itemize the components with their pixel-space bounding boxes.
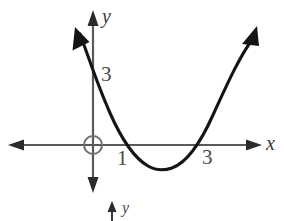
- y-axis-up-arrow-icon: [88, 10, 99, 26]
- y-axis-label: y: [102, 6, 111, 26]
- y-axis-down-arrow-icon: [88, 177, 99, 193]
- x-axis-right-arrow-icon: [246, 140, 262, 151]
- x-intercept-left-tick-label: 1: [117, 148, 128, 169]
- x-axis-label: x: [266, 133, 275, 153]
- stray-bottom-axis-arrow-icon: [108, 201, 117, 221]
- parabola-curve: [80, 34, 252, 170]
- parabola-right-arrow-icon: [242, 26, 259, 46]
- parabola-figure: y x 3 1 3 y: [0, 0, 285, 221]
- coordinate-plane-graphic: [0, 0, 285, 221]
- stray-bottom-y-label: y: [122, 200, 129, 216]
- x-axis-left-arrow-icon: [8, 140, 24, 151]
- y-intercept-tick-label: 3: [101, 64, 112, 85]
- parabola-left-arrow-icon: [73, 27, 90, 51]
- x-intercept-right-tick-label: 3: [202, 147, 213, 168]
